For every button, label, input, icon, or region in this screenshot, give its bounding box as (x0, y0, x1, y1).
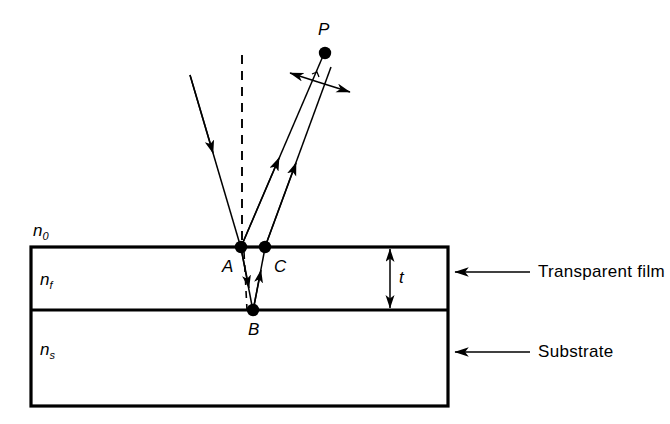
film-stack-outline (31, 247, 448, 406)
incident-ray (190, 75, 241, 248)
transparent-film-callout: Transparent film (538, 263, 665, 280)
thickness-label: t (399, 269, 404, 286)
stack-outer-rect (31, 247, 448, 406)
point-c-dot (259, 241, 271, 253)
film-index-label: nf (40, 271, 53, 291)
ambient-index-label: n0 (33, 222, 49, 242)
transmitted-ray-arrow (265, 163, 296, 247)
point-p-label: P (318, 21, 329, 38)
reflected-ray-from-a (241, 56, 323, 247)
reflected-ray-a-arrow (241, 158, 279, 247)
point-b-label: B (248, 321, 259, 338)
substrate-callout: Substrate (538, 343, 613, 360)
internally-reflected-ray-b-to-c (253, 248, 265, 311)
point-a-label: A (222, 258, 233, 275)
point-b-dot (247, 304, 259, 316)
point-c-label: C (274, 258, 286, 275)
substrate-index-label: ns (40, 341, 55, 361)
refracted-ray-a-to-b (241, 248, 253, 311)
callout-leaders (455, 272, 530, 352)
transmitted-ray-from-c (265, 67, 331, 247)
point-p-dot (319, 47, 331, 59)
incident-ray-arrow (190, 75, 213, 153)
thin-film-interference-diagram: n0 nf ns A B C P t Transparent film Subs… (0, 0, 670, 424)
point-a-dot (235, 241, 247, 253)
wavefront-double-arrow (290, 72, 350, 92)
